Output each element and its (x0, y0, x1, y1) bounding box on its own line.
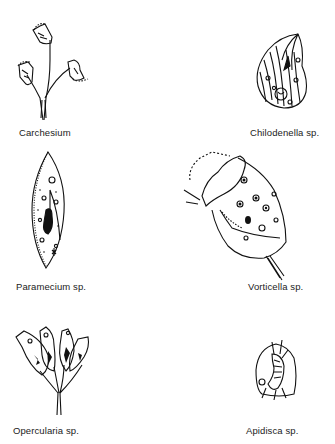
organism-label-opercularia: Opercularia sp. (13, 425, 79, 436)
carchesium-drawing (0, 0, 100, 125)
chilodenella-drawing (250, 30, 320, 110)
organism-label-apidisca: Apidisca sp. (246, 425, 298, 436)
apidisca-drawing (252, 340, 302, 402)
organism-label-chilodenella: Chilodenella sp. (250, 127, 319, 138)
organism-label-paramecium: Paramecium sp. (16, 281, 86, 292)
organism-label-vorticella: Vorticella sp. (248, 281, 303, 292)
organism-label-carchesium: Carchesium (19, 127, 71, 138)
paramecium-drawing (26, 150, 70, 270)
vorticella-drawing (182, 150, 312, 285)
opercularia-drawing (12, 325, 102, 415)
